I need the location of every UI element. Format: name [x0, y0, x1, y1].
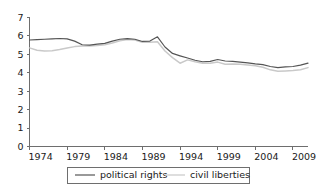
y-tick-label: 5 [17, 49, 23, 60]
series-line-political-rights [30, 37, 309, 68]
x-tick-label: 1999 [217, 151, 241, 162]
chart-legend: political rightscivil liberties [67, 167, 250, 183]
y-tick-label: 0 [17, 141, 23, 152]
x-tick-label: 2004 [254, 151, 278, 162]
chart-container: 01234567 1974197919841989199419992004200… [0, 0, 316, 192]
y-tick-label: 7 [17, 12, 23, 23]
series-line-civil-liberties [30, 40, 309, 72]
legend-label-civil-liberties: civil liberties [190, 169, 250, 180]
x-tick-label: 1984 [104, 151, 128, 162]
x-tick-label: 1994 [179, 151, 203, 162]
line-chart: 01234567 1974197919841989199419992004200… [0, 0, 316, 192]
x-tick-label: 1979 [66, 151, 90, 162]
y-tick-label: 2 [17, 104, 23, 115]
y-tick-label: 3 [17, 86, 23, 97]
y-axis: 01234567 [17, 12, 29, 152]
legend-label-political-rights: political rights [100, 169, 168, 180]
y-tick-label: 4 [17, 67, 23, 78]
y-tick-label: 1 [17, 122, 23, 133]
x-tick-label: 1974 [29, 151, 53, 162]
x-axis: 19741979198419891994199920042009 [29, 147, 317, 162]
x-tick-label: 2009 [292, 151, 316, 162]
x-tick-label: 1989 [141, 151, 165, 162]
series-lines [30, 37, 309, 71]
y-tick-label: 6 [17, 30, 23, 41]
